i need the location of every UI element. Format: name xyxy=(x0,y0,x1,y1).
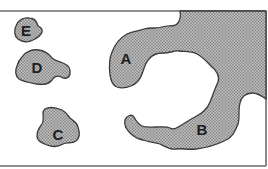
region-e-label: E xyxy=(21,22,31,39)
region-d-shape xyxy=(16,50,71,85)
region-a-label: A xyxy=(121,50,132,67)
region-diagram: A B C D E xyxy=(0,0,268,169)
region-d-label: D xyxy=(32,59,43,76)
region-a-b-landmass: A B xyxy=(109,11,266,149)
region-c-label: C xyxy=(53,126,64,143)
region-e: E xyxy=(15,18,43,42)
region-c: C xyxy=(37,107,79,146)
region-a-shape xyxy=(109,11,266,149)
region-b-label: B xyxy=(197,121,208,138)
region-d: D xyxy=(16,50,71,85)
